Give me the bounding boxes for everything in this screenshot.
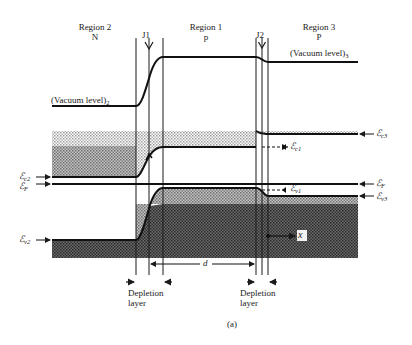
figure-caption: (a)	[227, 319, 237, 329]
vacuum-level-2-label: (Vacuum level)2	[51, 95, 109, 108]
j1-conduction-shading	[136, 131, 256, 177]
ec1-label: ℰc1	[290, 141, 301, 154]
vacuum-level-3-label: (Vacuum level)3	[290, 48, 348, 61]
j1-label: J1	[142, 30, 150, 40]
depletion-layer-right-label: Depletion layer	[240, 288, 276, 308]
depletion-layer-left-label: Depletion layer	[128, 288, 164, 308]
ef-right-label: ℰF	[376, 178, 385, 191]
region2-title: Region 2 N	[72, 22, 118, 42]
ev2-label: ℰv2	[19, 234, 30, 247]
x-axis-label: x	[298, 230, 302, 240]
region2-conduction-filled-shading	[52, 146, 136, 177]
band-diagram	[0, 0, 412, 345]
ev1-label: ℰv1	[290, 183, 301, 196]
valence-dark-shading	[52, 204, 358, 258]
region1-title: Region 1 p	[183, 22, 229, 42]
region3-title: Region 3 P	[296, 22, 342, 42]
ec3-label: ℰc3	[376, 128, 387, 141]
j2-label: J2	[256, 30, 264, 40]
ef-left-label: ℰF	[19, 181, 28, 194]
region2-conduction-light-shading	[52, 131, 136, 146]
d-label: d	[203, 258, 208, 268]
ev3-label: ℰv3	[376, 191, 387, 204]
